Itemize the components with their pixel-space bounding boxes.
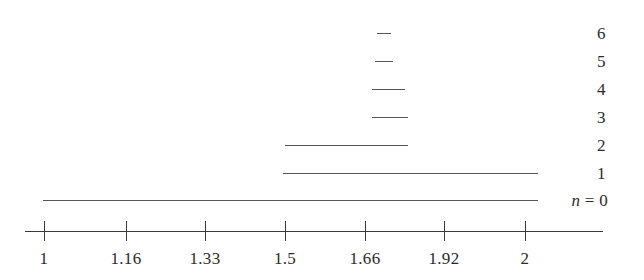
variable-n: n [571,191,580,210]
axis-tick-1 [44,221,45,241]
axis-tick-1-92 [444,221,445,241]
row-label-n5: 5 [597,53,606,70]
axis-tick-label-1-5: 1.5 [274,250,296,267]
interval-segment-n6 [377,33,391,34]
row-label-n0: n = 0 [560,192,608,209]
interval-segment-n3 [372,117,408,118]
interval-segment-n4 [372,89,405,90]
axis-tick-label-1-16: 1.16 [111,250,142,267]
axis-tick-1-33 [205,221,206,241]
axis-tick-1-66 [365,221,366,241]
axis-tick-label-1: 1 [40,250,49,267]
axis-line [25,231,603,232]
axis-tick-label-1-66: 1.66 [350,250,381,267]
row-label-n6: 6 [597,25,606,42]
axis-tick-label-2: 2 [521,250,530,267]
axis-tick-label-1-33: 1.33 [190,250,221,267]
axis-tick-label-1-92: 1.92 [429,250,460,267]
axis-tick-1-5 [285,221,286,241]
row-label-n4: 4 [597,81,606,98]
axis-tick-2 [525,221,526,241]
interval-segment-n2 [285,145,408,146]
row-label-n0-rest: = 0 [580,191,608,210]
interval-segment-n0 [43,200,538,201]
axis-tick-1-16 [126,221,127,241]
interval-segment-n1 [283,173,538,174]
interval-segment-n5 [375,61,393,62]
row-label-n2: 2 [597,137,606,154]
row-label-n1: 1 [597,165,606,182]
row-label-n3: 3 [597,109,606,126]
nested-interval-figure: 6 5 4 3 2 1 n = 0 1 1.16 1.33 1.5 1.66 1… [0,0,644,280]
